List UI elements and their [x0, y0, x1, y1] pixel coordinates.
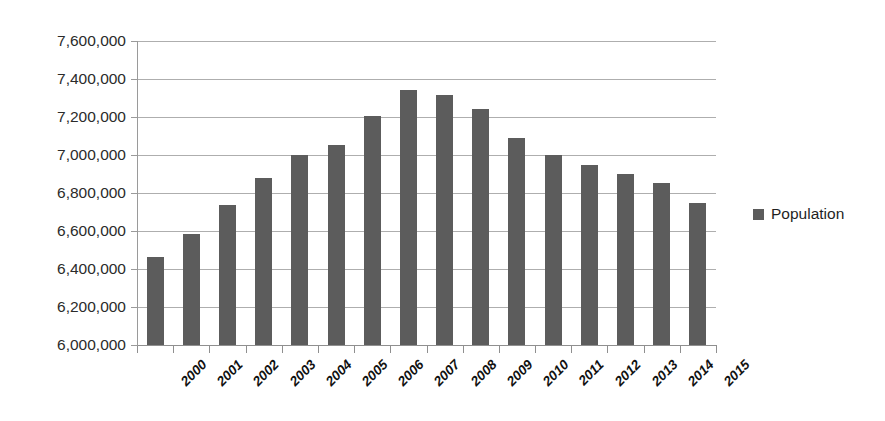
bar-2001: [183, 234, 200, 345]
legend-swatch-population: [753, 209, 764, 220]
x-axis-tick-label: 2005: [359, 357, 391, 389]
y-axis-tick-label: 6,200,000: [57, 298, 126, 316]
y-axis-tick-label: 7,200,000: [57, 108, 126, 126]
x-axis-tick-label: 2004: [323, 357, 355, 389]
y-axis-tick: [131, 41, 138, 42]
x-axis-tick-label: 2010: [540, 357, 572, 389]
bar-2004: [291, 155, 308, 345]
x-axis-tick: [716, 346, 717, 353]
x-axis-tick: [571, 346, 572, 353]
bar-2008: [436, 95, 453, 345]
bar-2014: [653, 183, 670, 345]
bar-2010: [508, 138, 525, 345]
x-axis-tick-label: 2013: [648, 357, 680, 389]
x-axis-tick-label: 2003: [286, 357, 318, 389]
x-axis-tick-label: 2007: [431, 357, 463, 389]
x-axis-tick-label: 2014: [685, 357, 717, 389]
x-axis-tick: [137, 346, 138, 353]
x-axis-tick-label: 2002: [250, 357, 282, 389]
bar-2006: [364, 116, 381, 345]
x-axis-tick: [607, 346, 608, 353]
x-axis-tick: [680, 346, 681, 353]
y-axis-tick-label: 6,800,000: [57, 184, 126, 202]
legend-label-population: Population: [771, 205, 844, 223]
y-axis-tick: [131, 231, 138, 232]
x-axis-tick-label: 2012: [612, 357, 644, 389]
x-axis-tick: [209, 346, 210, 353]
x-axis-tick: [354, 346, 355, 353]
x-axis-tick: [173, 346, 174, 353]
y-axis-tick-label: 6,400,000: [57, 260, 126, 278]
bars-container: [137, 41, 717, 345]
y-axis-tick: [131, 79, 138, 80]
x-axis-tick: [463, 346, 464, 353]
y-axis-labels: 7,600,0007,400,0007,200,0007,000,0006,80…: [0, 0, 126, 421]
y-axis-tick: [131, 193, 138, 194]
bar-2002: [219, 205, 236, 345]
y-axis-tick: [131, 269, 138, 270]
bar-2003: [255, 178, 272, 345]
y-axis-tick: [131, 307, 138, 308]
y-axis-tick-label: 7,400,000: [57, 70, 126, 88]
x-axis-tick: [644, 346, 645, 353]
x-axis-tick-label: 2008: [467, 357, 499, 389]
x-axis-tick: [282, 346, 283, 353]
bar-2000: [147, 257, 164, 345]
x-axis-tick-label: 2011: [576, 357, 607, 388]
y-axis-tick-label: 6,000,000: [57, 336, 126, 354]
x-axis-tick-label: 2009: [504, 357, 536, 389]
y-axis-tick-label: 6,600,000: [57, 222, 126, 240]
x-axis-tick: [499, 346, 500, 353]
bar-2007: [400, 90, 417, 345]
bar-2011: [545, 155, 562, 345]
x-axis-tick: [318, 346, 319, 353]
bar-2012: [581, 165, 598, 346]
y-axis-tick-label: 7,000,000: [57, 146, 126, 164]
y-axis-tick: [131, 155, 138, 156]
x-axis-tick-label: 2001: [214, 357, 246, 389]
x-axis-tick: [535, 346, 536, 353]
x-axis-tick: [427, 346, 428, 353]
x-axis-tick-label: 2006: [395, 357, 427, 389]
x-axis-tick-label: 2000: [178, 357, 210, 389]
y-axis-tick: [131, 117, 138, 118]
x-axis-tick: [390, 346, 391, 353]
x-axis-tick-label: 2015: [721, 357, 753, 389]
bar-2005: [328, 145, 345, 345]
bar-chart: 7,600,0007,400,0007,200,0007,000,0006,80…: [0, 0, 885, 421]
x-axis-tick: [246, 346, 247, 353]
bar-2013: [617, 174, 634, 345]
y-axis-tick-label: 7,600,000: [57, 32, 126, 50]
bar-2015: [689, 203, 706, 345]
chart-legend: Population: [753, 205, 844, 223]
bar-2009: [472, 109, 489, 345]
